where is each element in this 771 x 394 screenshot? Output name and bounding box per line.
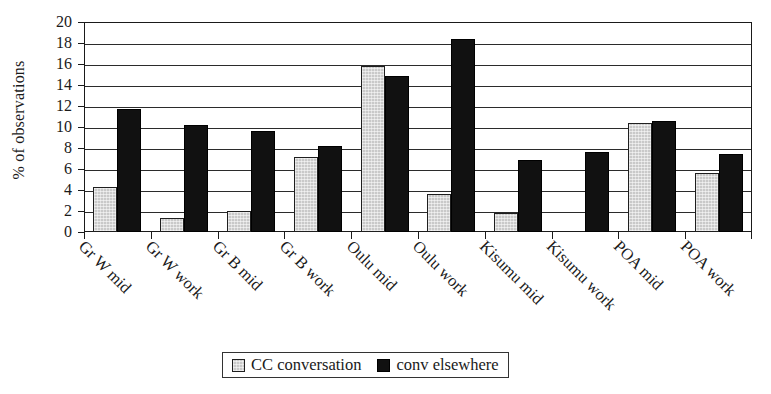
bar — [184, 125, 208, 232]
bar — [494, 213, 518, 232]
bar-group — [284, 22, 351, 232]
x-axis-tick-label: Kisumu mid — [477, 238, 547, 308]
x-axis-tick-label: POA work — [677, 238, 738, 299]
bar — [318, 146, 342, 232]
x-axis-tick-label: POA mid — [610, 238, 665, 293]
y-axis-tick-label: 18 — [56, 35, 72, 51]
x-axis-tick-labels: Gr W midGr W workGr B midGr B workOulu m… — [0, 238, 771, 338]
bar-group — [618, 22, 685, 232]
bar — [294, 157, 318, 232]
x-axis-tick-label: Gr W mid — [76, 238, 135, 297]
bar — [695, 173, 719, 232]
y-axis-tick-label: 20 — [56, 14, 72, 30]
bar — [227, 211, 251, 232]
bar — [93, 187, 117, 232]
bar — [518, 160, 542, 232]
legend-label: CC conversation — [251, 355, 361, 375]
bar — [427, 194, 451, 232]
bar — [160, 218, 184, 232]
x-axis-tick-label: Oulu work — [410, 238, 472, 300]
bar-group — [351, 22, 418, 232]
x-axis-tick-label: Oulu mid — [343, 238, 399, 294]
legend-swatch-light — [232, 359, 245, 372]
x-axis-tick-label: Gr W work — [143, 238, 207, 302]
y-axis-tick-label: 2 — [64, 203, 72, 219]
bar-group — [151, 22, 218, 232]
y-axis-tick-label: 4 — [64, 182, 72, 198]
bar — [628, 123, 652, 232]
bar — [719, 154, 743, 232]
legend-item: conv elsewhere — [377, 355, 498, 375]
y-axis-title-text: % of observations — [10, 61, 28, 180]
bar-group — [418, 22, 485, 232]
bar-group — [485, 22, 552, 232]
y-axis-tick-label: 8 — [64, 140, 72, 156]
y-axis-tick-label: 10 — [56, 119, 72, 135]
bar-group — [218, 22, 285, 232]
bar-group — [552, 22, 619, 232]
y-axis-title: % of observations — [2, 0, 36, 240]
chart-legend: CC conversationconv elsewhere — [222, 352, 509, 378]
bar — [251, 131, 275, 232]
bars-layer — [84, 22, 752, 232]
bar — [652, 121, 676, 232]
x-axis-tick-label: Gr B work — [276, 238, 338, 300]
legend-item: CC conversation — [232, 355, 361, 375]
bar — [585, 152, 609, 232]
bar-group — [84, 22, 151, 232]
y-axis-tick-label: 6 — [64, 161, 72, 177]
legend-label: conv elsewhere — [396, 355, 498, 375]
bar-chart: % of observations 02468101214161820 Gr W… — [0, 0, 771, 394]
bar — [385, 76, 409, 232]
bar — [117, 109, 141, 232]
y-axis-tick-label: 14 — [56, 77, 72, 93]
x-axis-tick-label: Gr B mid — [209, 238, 265, 294]
bar — [451, 39, 475, 232]
y-axis-tick-label: 16 — [56, 56, 72, 72]
bar-group — [685, 22, 752, 232]
bar — [361, 66, 385, 232]
y-axis-tick-label: 12 — [56, 98, 72, 114]
legend-swatch-dark — [377, 359, 390, 372]
x-axis-tick-label: Kisumu work — [543, 238, 619, 314]
